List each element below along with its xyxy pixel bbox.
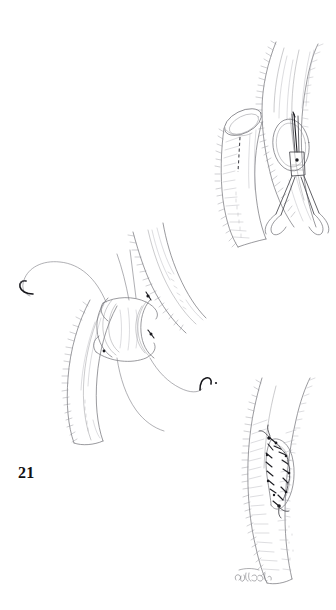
panel-arteriotomy-with-scissors xyxy=(256,41,329,235)
figure-number: 21 xyxy=(18,465,35,481)
panel-completed-anastomosis xyxy=(235,378,315,584)
curved-needle-right xyxy=(200,378,211,390)
suture-left xyxy=(20,262,106,302)
donor-vessel xyxy=(133,223,206,333)
surface-stipple xyxy=(289,526,293,559)
panel-side-to-side-anastomosis xyxy=(20,223,217,445)
completed-vessel-segment xyxy=(248,378,310,584)
suture-right xyxy=(150,358,217,392)
suture-thread-right xyxy=(150,358,202,392)
panel-bevelled-graft-end xyxy=(215,103,266,247)
suture-thread-left xyxy=(23,262,106,302)
surgical-illustration xyxy=(0,0,336,610)
figure-page: 21 xyxy=(0,0,336,610)
curved-needle-left xyxy=(20,281,33,294)
vessel-segment xyxy=(262,42,318,227)
recipient-vessel xyxy=(67,300,117,445)
suture-tail-upper xyxy=(117,254,129,300)
